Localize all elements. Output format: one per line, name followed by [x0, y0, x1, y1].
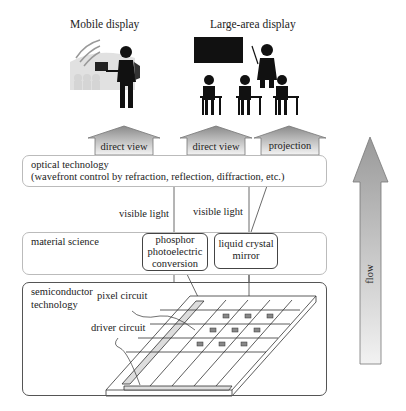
optical-technology-title: optical technology: [31, 159, 109, 171]
students-icon: [200, 75, 299, 115]
output-label-projection: projection: [261, 140, 319, 151]
output-label-direct-view-2: direct view: [187, 141, 245, 152]
mobile-display-heading: Mobile display: [70, 18, 139, 30]
optical-technology-subtitle: (wavefront control by refraction, reflec…: [31, 171, 284, 183]
flow-label: flow: [364, 262, 376, 286]
optical-technology-layer: optical technology (wavefront control by…: [22, 155, 327, 187]
teacher-icon: [252, 44, 277, 88]
semiconductor-technology-layer: semiconductor technology: [22, 282, 327, 396]
semiconductor-title-line1: semiconductor: [31, 286, 93, 298]
blackboard: [194, 37, 243, 63]
phosphor-photoelectric-conversion-box: phosphor photoelectric conversion: [142, 233, 208, 271]
pixel-circuit-label: pixel circuit: [97, 290, 147, 302]
material-science-title: material science: [31, 236, 99, 248]
lc-line-1: liquid crystal: [215, 238, 277, 250]
phosphor-line-2: photoelectric: [143, 246, 207, 258]
semiconductor-title-line2: technology: [31, 299, 78, 311]
liquid-crystal-mirror-box: liquid crystal mirror: [214, 233, 278, 269]
visible-light-label-1: visible light: [119, 208, 169, 220]
phosphor-line-1: phosphor: [143, 234, 207, 246]
visible-light-label-2: visible light: [193, 206, 243, 218]
output-label-direct-view-1: direct view: [95, 141, 153, 152]
light-arrow-reflect: [250, 183, 268, 235]
lc-line-2: mirror: [215, 250, 277, 262]
flow-arrow: [353, 137, 388, 364]
driver-circuit-label: driver circuit: [91, 322, 146, 334]
large-area-display-heading: Large-area display: [210, 18, 296, 30]
phosphor-line-3: conversion: [143, 258, 207, 270]
